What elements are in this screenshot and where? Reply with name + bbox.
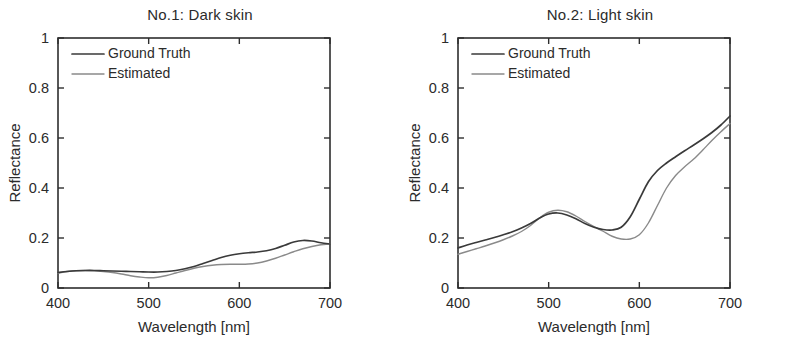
x-axis-title: Wavelength [nm] bbox=[538, 318, 650, 335]
axis-frame bbox=[58, 38, 330, 288]
x-axis-title: Wavelength [nm] bbox=[138, 318, 250, 335]
legend-label: Ground Truth bbox=[108, 45, 191, 61]
plot-area: 00.20.40.60.81400500600700Wavelength [nm… bbox=[0, 0, 400, 347]
x-tick-label: 700 bbox=[718, 295, 742, 311]
reflectance-figure: No.1: Dark skin00.20.40.60.8140050060070… bbox=[0, 0, 800, 347]
y-tick-label: 0.4 bbox=[429, 180, 449, 196]
chart-panel-1: No.1: Dark skin00.20.40.60.8140050060070… bbox=[0, 0, 400, 347]
x-tick-label: 500 bbox=[537, 295, 561, 311]
x-tick-label: 400 bbox=[46, 295, 70, 311]
y-tick-label: 1 bbox=[441, 30, 449, 46]
series-line-estimated bbox=[58, 244, 330, 278]
y-axis-title: Reflectance bbox=[6, 123, 23, 202]
legend-label: Ground Truth bbox=[508, 45, 591, 61]
plot-area: 00.20.40.60.81400500600700Wavelength [nm… bbox=[400, 0, 800, 347]
series-line-ground-truth bbox=[458, 116, 730, 248]
x-tick-label: 600 bbox=[627, 295, 651, 311]
y-tick-label: 0 bbox=[41, 280, 49, 296]
legend-label: Estimated bbox=[108, 65, 170, 81]
legend-label: Estimated bbox=[508, 65, 570, 81]
y-tick-label: 0 bbox=[441, 280, 449, 296]
y-tick-label: 0.6 bbox=[429, 130, 449, 146]
x-tick-label: 600 bbox=[227, 295, 251, 311]
x-tick-label: 700 bbox=[318, 295, 342, 311]
y-tick-label: 0.2 bbox=[29, 230, 49, 246]
y-tick-label: 0.8 bbox=[29, 80, 49, 96]
y-tick-label: 0.6 bbox=[29, 130, 49, 146]
y-tick-label: 0.2 bbox=[429, 230, 449, 246]
y-tick-label: 1 bbox=[41, 30, 49, 46]
x-tick-label: 500 bbox=[137, 295, 161, 311]
y-tick-label: 0.8 bbox=[429, 80, 449, 96]
y-axis-title: Reflectance bbox=[406, 123, 423, 202]
chart-panel-2: No.2: Light skin00.20.40.60.814005006007… bbox=[400, 0, 800, 347]
y-tick-label: 0.4 bbox=[29, 180, 49, 196]
series-line-estimated bbox=[458, 124, 730, 255]
x-tick-label: 400 bbox=[446, 295, 470, 311]
